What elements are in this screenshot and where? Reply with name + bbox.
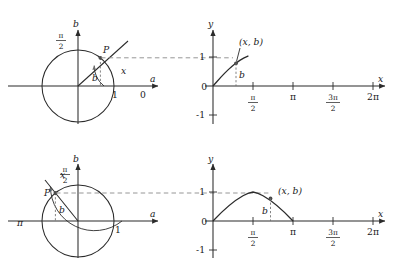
axis-label-b-bottom: b xyxy=(73,153,79,164)
axis-label-a-top: a xyxy=(150,73,155,84)
axis-label-y-top: y xyxy=(207,18,214,29)
svg-text:2: 2 xyxy=(331,239,336,248)
figure-canvas: P x b 1 0 a b π 2 1 0 -1 π xyxy=(0,0,404,267)
label-radius-one-bottom: 1 xyxy=(115,224,121,235)
x-tick-label-pi-top: π xyxy=(290,91,296,102)
x-tick-label-pi-bottom: π xyxy=(290,226,296,237)
x-tick-label-2pi-bottom: 2π xyxy=(367,226,379,237)
label-b-top-right: b xyxy=(239,69,245,80)
label-zero-top: 0 xyxy=(140,89,146,100)
axis-label-b-top: b xyxy=(73,18,79,29)
y-tick-label-0-top: 0 xyxy=(201,81,207,92)
svg-text:π: π xyxy=(63,165,68,174)
panel-bottom-right-sine: 1 0 -1 π 2 π 3π 2 2π x y (x, b) b xyxy=(196,153,385,258)
svg-text:π: π xyxy=(251,228,256,237)
axis-label-y-bottom: y xyxy=(207,153,214,164)
axis-label-a-bottom: a xyxy=(150,208,155,219)
svg-text:2: 2 xyxy=(63,176,68,185)
svg-text:2: 2 xyxy=(59,42,64,51)
label-p-bottom: P xyxy=(43,187,51,198)
x-tick-label-2pi-top: 2π xyxy=(367,91,379,102)
label-pi-bottom: π xyxy=(16,217,24,228)
label-radius-one-top: 1 xyxy=(112,89,118,100)
math-figure-unit-circle-sine: P x b 1 0 a b π 2 1 0 -1 π xyxy=(0,0,404,267)
y-tick-label-1-top: 1 xyxy=(199,51,205,62)
panel-top-left-unit-circle: P x b 1 0 a b π 2 xyxy=(8,18,158,124)
y-tick-label-0-bottom: 0 xyxy=(201,216,207,227)
svg-text:2: 2 xyxy=(251,104,256,113)
axis-label-x-bottom: x xyxy=(378,208,384,219)
x-tick-label-halfpi-top: π 2 xyxy=(248,93,258,113)
label-angle-x-top: x xyxy=(121,65,127,76)
label-p-top: P xyxy=(102,44,110,55)
svg-text:3π: 3π xyxy=(328,228,338,237)
sine-curve-bottom xyxy=(213,192,293,221)
x-tick-label-3halfpi-bottom: 3π 2 xyxy=(326,228,340,248)
svg-text:π: π xyxy=(59,31,64,40)
svg-text:π: π xyxy=(251,93,256,102)
panel-bottom-left-unit-circle: P x b 1 π a b π 2 xyxy=(8,153,158,258)
svg-text:3π: 3π xyxy=(328,93,338,102)
label-b-bottom: b xyxy=(59,204,65,215)
y-tick-label-neg1-bottom: -1 xyxy=(196,244,205,255)
x-tick-label-halfpi-bottom: π 2 xyxy=(248,228,258,248)
y-tick-label-1-bottom: 1 xyxy=(199,186,205,197)
leader-line-top xyxy=(237,48,241,62)
y-tick-label-neg1-top: -1 xyxy=(196,109,205,120)
panel-top-right-sine: 1 0 -1 π 2 π 3π 2 2π x y (x, b) b xyxy=(196,18,385,124)
label-xb-bottom: (x, b) xyxy=(278,185,302,196)
axis-label-x-top: x xyxy=(378,73,384,84)
label-b-bottom-right: b xyxy=(262,205,268,216)
svg-text:2: 2 xyxy=(251,239,256,248)
x-tick-label-3halfpi-top: 3π 2 xyxy=(326,93,340,113)
label-b-top: b xyxy=(92,72,98,83)
svg-text:2: 2 xyxy=(331,104,336,113)
label-xb-top: (x, b) xyxy=(239,36,263,47)
label-pi-over-2-top: π 2 xyxy=(56,31,66,51)
